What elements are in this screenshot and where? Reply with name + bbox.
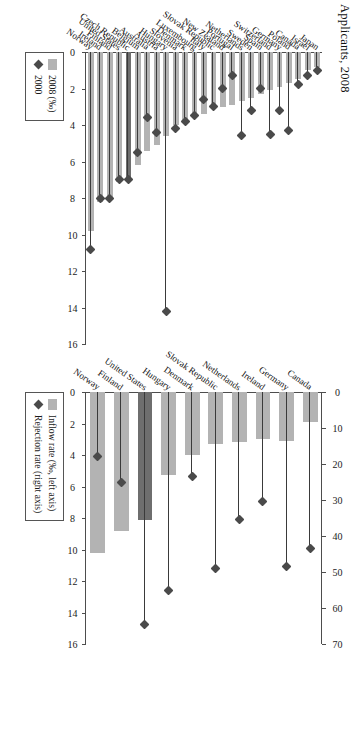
axis-tick (82, 344, 86, 345)
axis-tick (82, 613, 86, 614)
bar-germany (279, 392, 294, 441)
legend-asylum-inflow-rejection: Inflow rate (‰, left axis)Rejection rate… (25, 392, 64, 521)
stem-hungary (165, 52, 166, 311)
bar-slovak-republic (209, 392, 224, 444)
stem-finland (120, 392, 121, 482)
bar-slovak-republic (211, 52, 217, 109)
axis-tick-label: 2 (63, 83, 83, 94)
stem-czech-republic (127, 52, 128, 180)
axis-tick-label: 10 (63, 229, 83, 240)
chart-canvas: Applicants, 2008 02468101214160102030405… (0, 0, 356, 732)
bar-netherlands (232, 392, 247, 442)
legend-row-diamond: Rejection rate (right axis) (31, 399, 45, 513)
axis-tick-label: 12 (63, 576, 83, 587)
axis-tick (82, 235, 86, 236)
axis-tick-label: 16 (63, 639, 83, 650)
bar-norway (91, 392, 106, 553)
bar-luxembourg (192, 52, 198, 118)
secondary-axis-tick-label: 30 (327, 495, 349, 506)
axis-tick-label: 10 (63, 544, 83, 555)
rotated-page-wrapper: Applicants, 2008 02468101214160102030405… (0, 0, 356, 732)
secondary-axis-tick (322, 608, 326, 609)
stem-switzerland (269, 52, 270, 134)
bar-slovenia (173, 52, 179, 125)
secondary-axis-tick (322, 392, 326, 393)
axis-tick-label: 6 (63, 481, 83, 492)
bar-canada (303, 392, 318, 422)
bar-switzerland (267, 52, 273, 90)
bar-finland (107, 52, 113, 198)
stem-canada (309, 392, 310, 549)
legend-bar-label: 2008 (‰) (45, 75, 59, 113)
stem-slovak-republic (215, 392, 216, 568)
bar-netherlands (239, 52, 245, 101)
axis-tick-label: 2 (63, 418, 83, 429)
stem-belgium (137, 52, 138, 152)
bar-japan (314, 52, 320, 67)
bar-ireland (97, 52, 103, 202)
bar-poland (286, 52, 292, 83)
stem-ireland (262, 392, 263, 502)
bar-hungary (163, 52, 169, 136)
axis-tick-label: 8 (63, 513, 83, 524)
category-label-canada: Canada (286, 368, 314, 392)
secondary-axis-tick (322, 644, 326, 645)
stem-slovak-republic (212, 52, 213, 107)
axis-tick (82, 52, 86, 53)
axis-tick (82, 271, 86, 272)
diamond-marker-icon (33, 400, 43, 410)
bar-swatch-icon (48, 399, 57, 410)
axis-tick (82, 308, 86, 309)
diamond-marker-icon (33, 60, 43, 70)
secondary-axis-tick (322, 500, 326, 501)
stem-finland (109, 52, 110, 198)
bar-germany (277, 52, 283, 87)
axis-tick (82, 550, 86, 551)
stem-denmark (184, 52, 185, 121)
secondary-axis-tick-label: 70 (327, 639, 349, 650)
bar-hungary (161, 392, 176, 475)
bar-norway (88, 52, 94, 231)
secondary-axis-tick-label: 50 (327, 567, 349, 578)
secondary-axis-line (321, 392, 322, 644)
secondary-axis-tick (322, 464, 326, 465)
legend-diamond-label: Rejection rate (right axis) (31, 415, 45, 513)
bar-denmark (182, 52, 188, 123)
stem-norway (90, 52, 91, 249)
secondary-axis-tick (322, 536, 326, 537)
legend-row-diamond: 2000 (31, 59, 45, 113)
bar-united-states (138, 392, 153, 520)
legend-row-bar: Inflow rate (‰, left axis) (45, 399, 59, 513)
legend-bar-label: Inflow rate (‰, left axis) (45, 415, 59, 511)
bar-sweden (248, 52, 254, 98)
stem-austria (156, 52, 157, 132)
axis-tick-label: 14 (63, 302, 83, 313)
stem-luxembourg (194, 52, 195, 116)
axis-tick (82, 644, 86, 645)
axis-tick-label: 6 (63, 156, 83, 167)
bar-swatch-icon (48, 59, 57, 70)
stem-netherlands (241, 52, 242, 136)
bar-canada (295, 52, 301, 79)
axis-tick-label: 4 (63, 450, 83, 461)
axis-tick (82, 198, 86, 199)
axis-tick-label: 12 (63, 266, 83, 277)
secondary-axis-tick (322, 572, 326, 573)
stem-norway (97, 392, 98, 457)
secondary-axis-tick-label: 20 (327, 459, 349, 470)
chart-asylum-applicants-2008-2000: 0246810121416NorwayIrelandFinlandUnited … (86, 52, 322, 344)
bar-israel (305, 52, 311, 70)
stem-australia (146, 52, 147, 118)
stem-poland (288, 52, 289, 130)
stem-denmark (191, 392, 192, 477)
secondary-axis-tick-label: 10 (327, 423, 349, 434)
stem-slovenia (175, 52, 176, 129)
axis-tick-label: 0 (63, 387, 83, 398)
bar-australia (144, 52, 150, 151)
axis-tick (82, 487, 86, 488)
axis-tick (82, 89, 86, 90)
axis-tick (82, 455, 86, 456)
bar-denmark (185, 392, 200, 455)
axis-tick (82, 162, 86, 163)
axis-tick (82, 424, 86, 425)
